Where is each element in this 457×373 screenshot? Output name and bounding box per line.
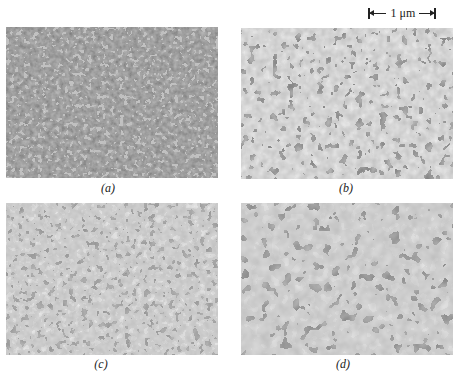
micrograph-b	[241, 28, 453, 179]
scale-bar-label: 1 μm	[388, 6, 418, 20]
panel-label-c: (c)	[81, 358, 121, 370]
panel-label-b: (b)	[326, 182, 366, 194]
micrograph-a	[6, 27, 218, 178]
scale-bar-left-arrow-icon	[369, 10, 374, 16]
micrograph-c	[6, 203, 218, 355]
scale-bar: 1 μm	[368, 6, 436, 20]
scale-bar-right-tick	[434, 8, 436, 19]
panel-label-a: (a)	[88, 182, 128, 194]
micrograph-d	[241, 203, 453, 355]
panel-label-d: (d)	[323, 358, 363, 370]
